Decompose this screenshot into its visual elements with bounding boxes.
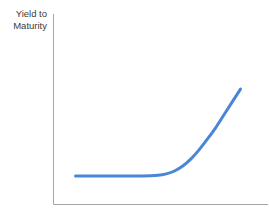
plot-area [0, 0, 269, 213]
yield-curve-chart: The Yield Curve Yield to Maturity [0, 0, 269, 213]
yield-curve-line [76, 89, 241, 176]
